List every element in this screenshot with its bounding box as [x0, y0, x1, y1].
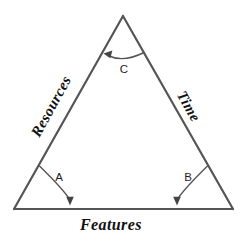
angle-label-b: B: [184, 171, 192, 183]
angle-arc-c: [108, 53, 144, 59]
angle-arrow-a-icon: [66, 197, 74, 206]
angle-arrow-b-icon: [173, 197, 181, 206]
angle-label-a: A: [55, 171, 63, 183]
angle-label-c: C: [120, 63, 128, 75]
triangle-edge-right: [123, 16, 233, 209]
triangle-edge-left: [14, 16, 123, 209]
angle-arc-b: [177, 166, 208, 200]
triangle-diagram: A B C Resources Time Features: [0, 0, 247, 246]
edge-label-features: Features: [80, 216, 142, 234]
